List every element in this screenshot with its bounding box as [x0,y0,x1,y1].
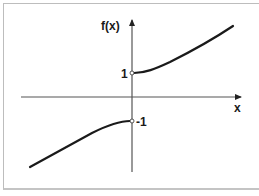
curve-left-branch [30,121,130,167]
tick-label-1: 1 [121,67,128,81]
function-graph: f(x) x 1 -1 [0,0,259,196]
y-axis-label: f(x) [101,19,120,33]
curve-right-branch [134,26,233,73]
x-axis-label: x [234,101,241,115]
open-circle-lower [130,119,134,123]
tick-label-neg1: -1 [136,115,147,129]
open-circle-upper [130,71,134,75]
